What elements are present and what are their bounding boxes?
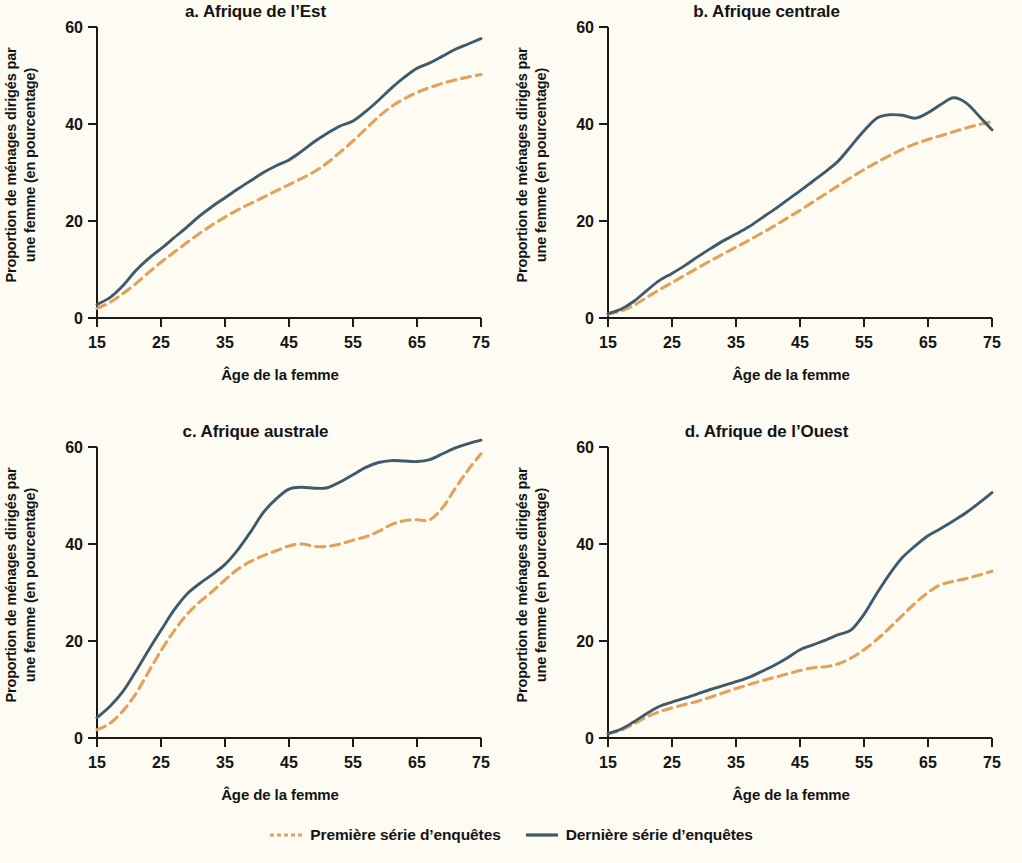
panel-b-xlabel: Âge de la femme — [571, 366, 1011, 383]
legend-solid-line-icon — [525, 829, 559, 841]
xtick-label: 45 — [280, 754, 298, 771]
xtick-label: 55 — [855, 334, 873, 351]
xtick-label: 65 — [919, 754, 937, 771]
ytick-label: 60 — [576, 19, 594, 36]
xtick-label: 65 — [919, 334, 937, 351]
xtick-label: 55 — [855, 754, 873, 771]
xtick-label: 15 — [88, 334, 106, 351]
xtick-label: 35 — [216, 754, 234, 771]
panel-c-xlabel: Âge de la femme — [60, 786, 500, 803]
xtick-label: 45 — [791, 334, 809, 351]
panel-b-plot: 020406015253545556575 — [511, 0, 1022, 400]
ytick-label: 60 — [576, 439, 594, 456]
xtick-label: 75 — [983, 754, 1001, 771]
ytick-label: 60 — [65, 439, 83, 456]
legend-item-derniere: Dernière série d’enquêtes — [525, 826, 753, 844]
xtick-label: 75 — [472, 334, 490, 351]
xtick-label: 45 — [791, 754, 809, 771]
ytick-label: 20 — [65, 213, 83, 230]
ytick-label: 20 — [576, 633, 594, 650]
panel-d-xlabel: Âge de la femme — [571, 786, 1011, 803]
panel-afrique-centrale: b. Afrique centrale Proportion de ménage… — [511, 0, 1022, 420]
legend-label-premiere: Première série d’enquêtes — [310, 826, 501, 844]
series-line-premiere — [608, 122, 992, 315]
series-line-premiere — [608, 571, 992, 733]
legend-dashed-line-icon — [269, 829, 303, 841]
legend-label-derniere: Dernière série d’enquêtes — [566, 826, 753, 844]
figure-container: a. Afrique de l’Est Proportion de ménage… — [0, 0, 1022, 863]
xtick-label: 25 — [152, 334, 170, 351]
xtick-label: 25 — [663, 754, 681, 771]
xtick-label: 35 — [727, 754, 745, 771]
xtick-label: 75 — [472, 754, 490, 771]
series-line-derniere — [97, 440, 481, 717]
panel-a-xlabel: Âge de la femme — [60, 366, 500, 383]
panel-afrique-de-lest: a. Afrique de l’Est Proportion de ménage… — [0, 0, 511, 420]
xtick-label: 65 — [408, 754, 426, 771]
xtick-label: 35 — [216, 334, 234, 351]
xtick-label: 55 — [344, 334, 362, 351]
xtick-label: 75 — [983, 334, 1001, 351]
xtick-label: 25 — [152, 754, 170, 771]
xtick-label: 65 — [408, 334, 426, 351]
xtick-label: 25 — [663, 334, 681, 351]
ytick-label: 40 — [576, 536, 594, 553]
ytick-label: 0 — [74, 730, 83, 747]
ytick-label: 0 — [585, 730, 594, 747]
chart-legend: Première série d’enquêtes Dernière série… — [0, 826, 1022, 844]
ytick-label: 40 — [65, 536, 83, 553]
xtick-label: 15 — [599, 754, 617, 771]
legend-item-premiere: Première série d’enquêtes — [269, 826, 501, 844]
xtick-label: 55 — [344, 754, 362, 771]
ytick-label: 20 — [65, 633, 83, 650]
ytick-label: 0 — [585, 310, 594, 327]
ytick-label: 40 — [576, 116, 594, 133]
series-line-derniere — [608, 493, 992, 734]
xtick-label: 15 — [599, 334, 617, 351]
xtick-label: 35 — [727, 334, 745, 351]
ytick-label: 60 — [65, 19, 83, 36]
series-line-derniere — [97, 39, 481, 305]
panel-d-plot: 020406015253545556575 — [511, 420, 1022, 820]
xtick-label: 45 — [280, 334, 298, 351]
xtick-label: 15 — [88, 754, 106, 771]
ytick-label: 20 — [576, 213, 594, 230]
panel-afrique-de-louest: d. Afrique de l’Ouest Proportion de ména… — [511, 420, 1022, 840]
series-line-premiere — [97, 454, 481, 730]
series-line-derniere — [608, 98, 992, 314]
panel-afrique-australe: c. Afrique australe Proportion de ménage… — [0, 420, 511, 840]
panel-c-plot: 020406015253545556575 — [0, 420, 511, 820]
ytick-label: 0 — [74, 310, 83, 327]
series-line-premiere — [97, 75, 481, 309]
ytick-label: 40 — [65, 116, 83, 133]
panel-a-plot: 020406015253545556575 — [0, 0, 511, 400]
